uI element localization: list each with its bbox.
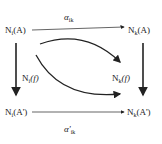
node-bottom-right: Nk(A') (127, 107, 151, 120)
diagram-arrows (0, 0, 162, 144)
top-arrow (32, 27, 124, 30)
node-top-right: Nk(A) (128, 25, 150, 38)
node-bottom-left: Ni(A') (5, 107, 27, 120)
curved-arrow-lower (36, 55, 120, 95)
left-arrow-label: Ni(f) (22, 73, 39, 86)
right-arrow-label: Nk(f) (112, 73, 130, 86)
node-top-left: Ni(A) (5, 25, 26, 38)
curved-arrow-upper (40, 39, 120, 62)
alpha-label: αik (64, 12, 73, 25)
alpha-prime-label: α'ik (64, 124, 75, 137)
